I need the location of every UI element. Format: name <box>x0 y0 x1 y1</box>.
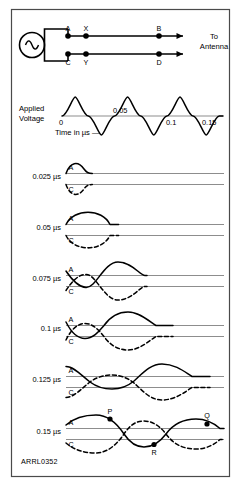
voltage-tick-3: 0.15 <box>202 118 216 127</box>
ac-source-icon <box>20 33 45 58</box>
row-time-label-4: 0.125 µs <box>32 375 61 384</box>
row-time-label-1: 0.05 µs <box>37 223 62 232</box>
applied-voltage-chart: Applied Voltage 0 0.05 0.1 0.15 Time in … <box>19 97 223 137</box>
voltage-tick-1: 0.05 <box>113 106 127 115</box>
row2-upper-wave <box>66 262 147 288</box>
propagation-row-2: 0.075 µs A C <box>32 262 224 300</box>
marked-point-dot-p <box>107 416 112 421</box>
row3-upper-conductor-label: A <box>69 315 74 324</box>
top-conductor-arrow-icon <box>177 33 184 39</box>
marked-point-label-r: R <box>151 448 156 457</box>
figure-code-label: ARRL0352 <box>21 457 58 466</box>
node-label-a: A <box>66 24 71 33</box>
voltage-tick-2: 0.1 <box>166 118 176 127</box>
node-label-x: X <box>84 24 89 33</box>
row3-lower-conductor-label: C <box>69 337 74 346</box>
node-label-d: D <box>156 58 161 67</box>
propagation-row-0: 0.025 µs A C <box>32 163 224 194</box>
node-dot-d <box>156 51 162 57</box>
time-axis-caption: Time in µs — <box>55 128 100 137</box>
propagation-row-5: 0.15 µs A C P Q R <box>37 407 224 457</box>
circuit-diagram: A X B C Y D To Antenna <box>20 24 229 67</box>
marked-point-label-q: Q <box>204 411 210 420</box>
marked-point-label-p: P <box>108 407 113 416</box>
row5-lower-wave <box>66 421 224 453</box>
bottom-conductor-arrow-icon <box>177 51 184 57</box>
applied-voltage-label-line2: Voltage <box>19 114 44 123</box>
row-time-label-2: 0.075 µs <box>32 274 61 283</box>
node-dot-b <box>156 33 162 39</box>
row2-lower-wave <box>66 274 147 300</box>
applied-voltage-label-line1: Applied <box>19 104 44 113</box>
row5-upper-wave <box>66 415 224 447</box>
row-time-label-3: 0.1 µs <box>41 324 62 333</box>
row2-upper-conductor-label: A <box>69 265 74 274</box>
row1-upper-wave <box>66 212 119 224</box>
row2-lower-conductor-label: C <box>69 287 74 296</box>
propagation-row-4: 0.125 µs A C <box>32 364 224 400</box>
row1-lower-wave <box>66 236 119 248</box>
antenna-label-line1: To <box>210 32 218 41</box>
row-time-label-5: 0.15 µs <box>37 427 62 436</box>
node-dot-x <box>83 33 89 39</box>
transmission-line-figure: A X B C Y D To Antenna Applied Voltage 0… <box>0 0 241 486</box>
node-label-b: B <box>157 24 162 33</box>
node-dot-y <box>83 51 89 57</box>
row-time-label-0: 0.025 µs <box>32 172 61 181</box>
propagation-row-3: 0.1 µs A C <box>41 312 224 350</box>
marked-point-dot-r <box>151 442 156 447</box>
marked-point-dot-q <box>204 421 209 426</box>
propagation-row-1: 0.05 µs A C <box>37 212 224 248</box>
antenna-label-line2: Antenna <box>200 42 229 51</box>
source-top-lead <box>45 29 69 45</box>
node-label-c: C <box>65 58 70 67</box>
node-label-y: Y <box>84 58 89 67</box>
node-dot-c <box>65 51 71 57</box>
figure-container: A X B C Y D To Antenna Applied Voltage 0… <box>0 0 241 486</box>
voltage-tick-0: 0 <box>59 118 63 127</box>
node-dot-a <box>65 33 71 39</box>
figure-border <box>12 10 230 477</box>
